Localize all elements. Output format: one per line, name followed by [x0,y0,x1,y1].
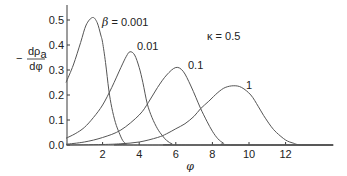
beta-symbol: β [101,16,108,29]
beta-label-1: 1 [246,79,252,91]
y-tick-label: 0.3 [49,64,64,76]
curve-beta-0-001 [66,17,333,145]
y-tick-labels: 0.0 0.1 0.2 0.3 0.4 0.5 [49,14,64,151]
y-label-minus: − [16,52,22,64]
y-label-d-rho: dρ [28,45,40,57]
series-group [66,17,333,145]
beta-label-0-1: 0.1 [188,59,203,71]
x-tick-label: 6 [173,148,179,160]
beta-value: = 0.001 [108,16,148,28]
x-tick-labels: 2 4 6 8 10 12 [100,148,292,160]
x-axis-label: φ [186,160,194,173]
beta-label-0-01: 0.01 [137,40,158,52]
y-tick-label: 0.4 [49,39,64,51]
x-tick-label: 2 [100,148,106,160]
y-axis-label: − dρa dφ [16,45,47,72]
y-label-numerator: dρa [28,45,47,60]
x-tick-label: 10 [243,148,255,160]
y-label-subscript: a [40,48,47,60]
kappa-label: κ = 0.5 [207,30,240,42]
curve-beta-0-1 [66,67,333,145]
beta-label-0-001: β = 0.001 [101,16,148,29]
y-label-denominator: dφ [29,60,42,72]
chart: 0.0 0.1 0.2 0.3 0.4 0.5 2 4 6 8 10 12 β … [0,0,347,176]
y-tick-label: 0.0 [49,139,64,151]
x-tick-label: 12 [279,148,291,160]
x-tick-label: 4 [136,148,142,160]
y-tick-label: 0.5 [49,14,64,26]
x-tick-label: 8 [209,148,215,160]
y-tick-label: 0.2 [49,89,64,101]
y-tick-label: 0.1 [49,114,64,126]
